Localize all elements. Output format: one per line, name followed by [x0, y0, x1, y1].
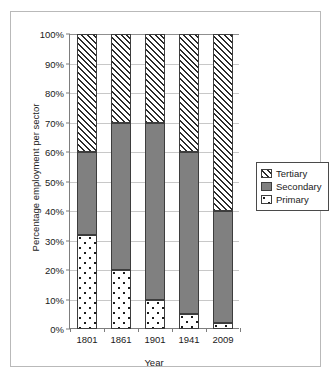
bar-segment-secondary-2009[interactable]	[213, 211, 233, 323]
x-axis-tick-label: 1901	[144, 334, 165, 345]
x-axis-tick	[172, 328, 173, 332]
y-axis-tick-label: 20%	[45, 265, 64, 276]
y-axis-tick	[66, 63, 70, 64]
y-axis-tick-label: 80%	[45, 88, 64, 99]
bar-segment-tertiary-1801[interactable]	[77, 34, 97, 152]
y-axis-tick	[66, 122, 70, 123]
bar-group-1801[interactable]	[77, 34, 97, 328]
y-axis-tick	[66, 240, 70, 241]
y-axis-title: Percentage employment per sector	[30, 58, 41, 298]
bar-segment-primary-1901[interactable]	[145, 300, 165, 330]
y-axis-tick-label: 10%	[45, 294, 64, 305]
bar-segment-tertiary-1941[interactable]	[179, 34, 199, 152]
legend-item-primary[interactable]: Primary	[261, 193, 324, 206]
bar-group-2009[interactable]	[213, 34, 233, 328]
legend-swatch-secondary-icon	[261, 182, 272, 191]
y-axis-tick	[66, 181, 70, 182]
y-axis-tick-label: 30%	[45, 235, 64, 246]
y-axis-tick-label: 90%	[45, 58, 64, 69]
y-axis-tick-label: 60%	[45, 147, 64, 158]
legend-label: Secondary	[276, 182, 321, 192]
y-axis-tick	[66, 152, 70, 153]
x-axis-tick	[138, 328, 139, 332]
x-axis-tick	[70, 328, 71, 332]
bar-segment-secondary-1801[interactable]	[77, 152, 97, 235]
bar-group-1941[interactable]	[179, 34, 199, 328]
y-axis-tick-label: 0%	[50, 324, 64, 335]
y-axis-tick-label: 100%	[40, 29, 64, 40]
legend-item-tertiary[interactable]: Tertiary	[261, 167, 324, 180]
y-axis-tick	[66, 299, 70, 300]
y-axis-tick	[66, 34, 70, 35]
x-axis-title: Year	[69, 357, 239, 368]
x-axis-tick	[240, 328, 241, 332]
y-axis-tick-label: 40%	[45, 206, 64, 217]
legend-swatch-primary-icon	[261, 195, 272, 204]
chart-legend: TertiarySecondaryPrimary	[256, 162, 329, 211]
chart-frame: Percentage employment per sector 0%10%20…	[10, 11, 321, 367]
x-axis-tick-label: 1801	[76, 334, 97, 345]
y-axis-tick	[66, 211, 70, 212]
bar-segment-tertiary-1901[interactable]	[145, 34, 165, 123]
x-axis-tick-label: 1861	[110, 334, 131, 345]
x-axis-tick	[104, 328, 105, 332]
x-axis-tick-label: 2009	[212, 334, 233, 345]
bar-segment-secondary-1901[interactable]	[145, 123, 165, 300]
x-axis-tick	[206, 328, 207, 332]
plot-area: 0%10%20%30%40%50%60%70%80%90%100%1801186…	[69, 34, 239, 329]
chart-figure: Percentage employment per sector 0%10%20…	[0, 0, 331, 380]
bar-segment-tertiary-1861[interactable]	[111, 34, 131, 123]
x-axis-tick-label: 1941	[178, 334, 199, 345]
bar-segment-primary-1861[interactable]	[111, 270, 131, 329]
legend-swatch-tertiary-icon	[261, 169, 272, 178]
y-axis-tick	[66, 93, 70, 94]
bar-segment-secondary-1941[interactable]	[179, 152, 199, 314]
y-axis-tick-label: 50%	[45, 176, 64, 187]
y-axis-tick-label: 70%	[45, 117, 64, 128]
bar-segment-tertiary-2009[interactable]	[213, 34, 233, 211]
legend-label: Tertiary	[276, 169, 307, 179]
legend-item-secondary[interactable]: Secondary	[261, 180, 324, 193]
bar-group-1901[interactable]	[145, 34, 165, 328]
bar-segment-secondary-1861[interactable]	[111, 123, 131, 271]
legend-label: Primary	[276, 195, 309, 205]
y-axis-tick	[66, 270, 70, 271]
bar-segment-primary-1941[interactable]	[179, 314, 199, 329]
bar-segment-primary-1801[interactable]	[77, 235, 97, 329]
bar-segment-primary-2009[interactable]	[213, 323, 233, 329]
bar-group-1861[interactable]	[111, 34, 131, 328]
